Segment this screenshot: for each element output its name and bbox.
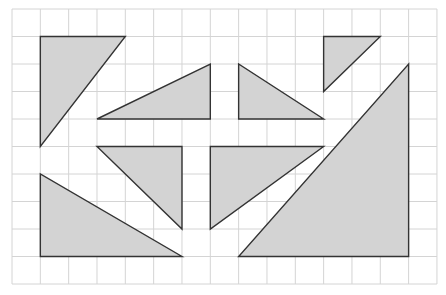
grid-diagram-svg — [0, 0, 446, 295]
grid-diagram — [0, 0, 446, 295]
